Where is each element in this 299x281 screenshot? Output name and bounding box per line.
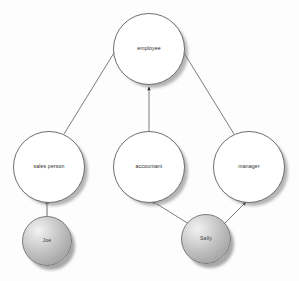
- node-joe[interactable]: Joe: [22, 216, 72, 266]
- node-manager-label: manager: [238, 164, 260, 170]
- node-accountant[interactable]: accountant: [113, 131, 185, 203]
- edge-manager-to-employee: [181, 48, 234, 134]
- node-manager[interactable]: manager: [213, 131, 285, 203]
- node-sally-label: Sally: [200, 236, 212, 242]
- node-employee[interactable]: employee: [113, 13, 185, 85]
- node-sales-person[interactable]: sales person: [13, 131, 85, 203]
- edge-sally-to-manager: [224, 202, 246, 224]
- node-employee-label: employee: [137, 46, 161, 52]
- class-diagram: employee sales person accountant manager…: [0, 0, 299, 281]
- node-sally[interactable]: Sally: [181, 214, 231, 264]
- node-sales-person-label: sales person: [33, 164, 64, 170]
- node-accountant-label: accountant: [136, 164, 163, 170]
- edge-sally-to-accountant: [152, 201, 189, 224]
- node-joe-label: Joe: [43, 238, 52, 244]
- edge-sales-person-to-employee: [64, 48, 117, 134]
